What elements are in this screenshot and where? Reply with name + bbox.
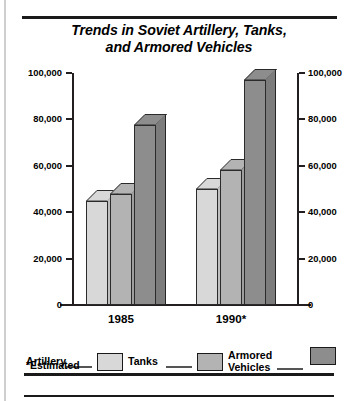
y-tick-label-right: 20,000 — [308, 254, 337, 264]
y-tick-left — [66, 118, 72, 120]
y-axis-right — [297, 73, 299, 306]
y-tick-left — [66, 211, 72, 213]
bar-artillery-1985 — [86, 201, 108, 305]
y-tick-label-right: 0 — [308, 300, 313, 310]
y-tick-left — [66, 304, 72, 306]
y-tick-left — [66, 165, 72, 167]
legend-leader-line — [277, 368, 303, 370]
y-tick-left — [66, 72, 72, 74]
bar-tanks-1990 — [220, 170, 242, 305]
legend-swatch-armored-vehicles — [310, 347, 336, 365]
bar-tanks-1985 — [110, 194, 132, 305]
x-axis-label-1985: 1985 — [86, 312, 156, 325]
y-tick-right — [299, 165, 305, 167]
bar-armored-vehicles-1985 — [134, 125, 156, 305]
legend-label-tanks: Tanks — [128, 356, 158, 368]
legend-swatch-artillery — [97, 353, 123, 371]
y-tick-label-right: 80,000 — [308, 114, 337, 124]
legend-bottom-rule — [24, 373, 334, 376]
bar-artillery-1990 — [196, 189, 218, 305]
y-tick-label-right: 40,000 — [308, 207, 337, 217]
y-tick-label-left: 20,000 — [33, 254, 62, 264]
y-tick-label-right: 100,000 — [308, 68, 342, 78]
footer-rule — [24, 395, 334, 397]
footnote: *Estimated — [26, 360, 80, 371]
legend-label-armored-vehicles: Armored Vehicles — [228, 350, 272, 373]
y-tick-label-right: 60,000 — [308, 161, 337, 171]
y-tick-right — [299, 72, 305, 74]
chart-figure: Trends in Soviet Artillery, Tanks, and A… — [0, 0, 352, 401]
bar-side-face — [265, 69, 276, 305]
y-tick-right — [299, 304, 305, 306]
y-tick-right — [299, 211, 305, 213]
y-tick-label-left: 100,000 — [28, 68, 62, 78]
y-tick-label-left: 0 — [57, 300, 62, 310]
y-tick-label-left: 60,000 — [33, 161, 62, 171]
y-tick-left — [66, 258, 72, 260]
y-tick-right — [299, 258, 305, 260]
x-axis-label-1990: 1990* — [196, 312, 266, 325]
y-tick-label-left: 80,000 — [33, 114, 62, 124]
y-tick-label-left: 40,000 — [33, 207, 62, 217]
y-tick-right — [299, 118, 305, 120]
y-axis-left — [72, 73, 74, 306]
bar-side-face — [155, 114, 166, 305]
legend-leader-line — [166, 366, 192, 368]
bar-armored-vehicles-1990 — [244, 80, 266, 305]
legend-swatch-tanks — [197, 353, 223, 371]
